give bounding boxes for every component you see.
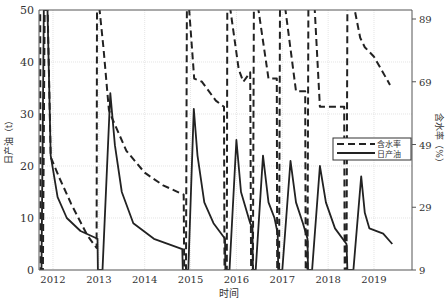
x-tick-label: 2013 [86, 274, 111, 285]
y-axis-title-left: 日产油（t） [3, 116, 14, 165]
x-tick-label: 2012 [40, 274, 65, 285]
y-tick-label-right: 9 [419, 265, 425, 276]
line-chart: 0102030405092949698920122013201420152016… [0, 0, 446, 304]
legend-label-water-cut: 含水率 [377, 139, 401, 149]
x-tick-label: 2015 [178, 274, 203, 285]
y-tick-label-left: 40 [20, 56, 34, 69]
y-tick-label-left: 50 [20, 4, 34, 17]
x-tick-label: 2016 [224, 274, 249, 285]
y-tick-label-right: 49 [419, 140, 432, 151]
x-tick-label: 2019 [361, 274, 386, 285]
x-tick-label: 2018 [315, 274, 340, 285]
x-axis-title: 时间 [219, 287, 239, 299]
y-tick-label-left: 0 [27, 264, 34, 277]
y-axis-title-right: 含水率（%） [434, 113, 445, 167]
y-tick-label-right: 89 [419, 14, 432, 25]
y-tick-label-right: 69 [419, 77, 432, 88]
x-tick-label: 2017 [270, 274, 295, 285]
y-tick-label-left: 10 [20, 212, 34, 225]
legend-label-daily-oil: 日产油 [377, 149, 401, 159]
y-tick-label-right: 29 [419, 202, 432, 213]
x-tick-label: 2014 [132, 274, 157, 285]
y-tick-label-left: 30 [20, 108, 34, 121]
y-tick-label-left: 20 [20, 160, 34, 173]
chart-container: 0102030405092949698920122013201420152016… [0, 0, 446, 304]
water-cut-series [40, 3, 390, 270]
